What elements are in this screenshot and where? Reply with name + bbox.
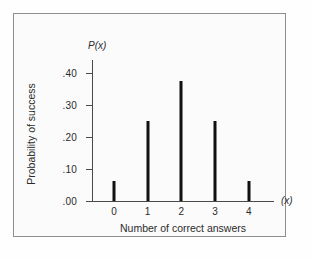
y-axis-symbol-label: P(x): [88, 40, 106, 51]
x-tick-label: 2: [179, 206, 185, 217]
y-axis-title: Probability of success: [25, 54, 37, 214]
y-tick-label: .20: [62, 131, 77, 142]
y-axis-line: [92, 60, 93, 202]
y-tick: .40: [86, 73, 92, 74]
plot-area: .40.30.20.10.00 01234: [92, 60, 274, 202]
y-tick: .20: [86, 137, 92, 138]
chart-frame: P(x) (x) Probability of success Number o…: [13, 13, 286, 237]
y-tick-label: .30: [62, 99, 77, 110]
y-tick-label: .40: [62, 67, 77, 78]
bar: [146, 121, 149, 201]
bar: [112, 181, 115, 201]
y-tick: .10: [86, 169, 92, 170]
x-tick-label: 3: [212, 206, 218, 217]
x-tick-label: 4: [246, 206, 252, 217]
bar: [180, 81, 183, 201]
bar: [214, 121, 217, 201]
y-tick-label: .00: [62, 196, 77, 207]
y-tick: .30: [86, 105, 92, 106]
x-axis-title: Number of correct answers: [92, 222, 274, 234]
x-axis-line: [92, 201, 274, 202]
figure-container: P(x) (x) Probability of success Number o…: [0, 0, 313, 260]
y-tick: .00: [86, 201, 92, 202]
y-tick-label: .10: [62, 163, 77, 174]
x-tick-label: 0: [111, 206, 117, 217]
x-axis-symbol-label: (x): [281, 195, 293, 206]
x-tick-label: 1: [145, 206, 151, 217]
bar: [247, 181, 250, 201]
